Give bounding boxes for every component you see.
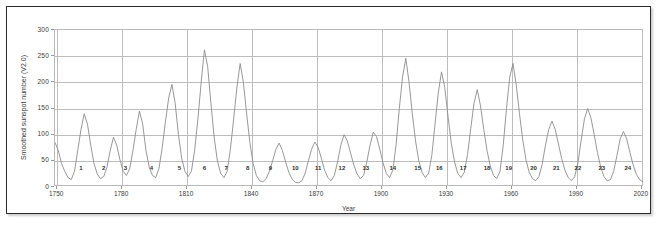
cycle-label-15: 15: [414, 165, 421, 171]
cycle-label-22: 22: [575, 165, 582, 171]
y-axis-tick-label: 300: [7, 26, 49, 33]
cycle-label-3: 3: [124, 165, 127, 171]
y-axis-tick-label: 200: [7, 78, 49, 85]
x-axis-tick-label: 1780: [114, 190, 128, 198]
y-axis-tick-mark: [51, 186, 54, 187]
cycle-label-16: 16: [436, 165, 443, 171]
cycle-label-17: 17: [460, 165, 467, 171]
cycle-label-11: 11: [315, 165, 321, 171]
cycle-label-18: 18: [484, 165, 491, 171]
y-axis-tick-label: 0: [7, 183, 49, 190]
cycle-label-13: 13: [362, 165, 369, 171]
cycle-label-4: 4: [150, 165, 153, 171]
cycle-label-8: 8: [246, 165, 249, 171]
cycle-label-20: 20: [530, 165, 537, 171]
cycle-label-24: 24: [624, 165, 631, 171]
x-axis-tick-label: 1840: [244, 190, 258, 198]
cycle-label-19: 19: [505, 165, 512, 171]
x-axis-tick-label: 1900: [374, 190, 388, 198]
x-axis-tick-label: 1810: [179, 190, 193, 198]
x-axis-tick-label: 2020: [634, 190, 648, 198]
cycle-label-21: 21: [553, 165, 560, 171]
cycle-label-1: 1: [79, 165, 82, 171]
x-axis-tick-label: 1750: [49, 190, 63, 198]
y-axis-tick-label: 250: [7, 52, 49, 59]
figure-frame: Smoothed sunspot number (V2.0) 050100150…: [6, 6, 651, 214]
cycle-label-6: 6: [203, 165, 206, 171]
sunspot-series-line: [55, 30, 644, 187]
x-axis-tick-label: 1870: [309, 190, 323, 198]
cycle-label-9: 9: [269, 165, 272, 171]
x-axis-tick-label: 1930: [439, 190, 453, 198]
cycle-label-23: 23: [598, 165, 605, 171]
cycle-label-5: 5: [178, 165, 181, 171]
x-axis-label: Year: [54, 205, 643, 212]
plot-area: 123456789101112131415161718192021222324: [54, 29, 643, 186]
y-axis-tick-label: 100: [7, 130, 49, 137]
cycle-label-14: 14: [389, 165, 396, 171]
y-axis-tick-label: 150: [7, 104, 49, 111]
cycle-label-10: 10: [292, 165, 299, 171]
x-axis-tick-label: 1960: [504, 190, 518, 198]
y-axis-tick-label: 50: [7, 156, 49, 163]
cycle-label-12: 12: [339, 165, 346, 171]
screenshot-root: Smoothed sunspot number (V2.0) 050100150…: [0, 0, 661, 228]
cycle-label-7: 7: [224, 165, 227, 171]
cycle-label-2: 2: [102, 165, 105, 171]
sunspot-number-line: [55, 50, 643, 183]
x-axis-tick-label: 1990: [569, 190, 583, 198]
